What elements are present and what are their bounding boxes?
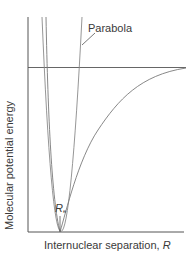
potential-energy-diagram	[0, 0, 195, 258]
parabola-curve	[42, 17, 82, 232]
parabola-leader-line	[82, 33, 95, 45]
morse-curve	[46, 17, 186, 232]
x-axis-label-text: Internuclear separation,	[44, 239, 163, 251]
x-axis-label-variable: R	[163, 239, 171, 251]
equilibrium-separation-label: Re	[55, 202, 66, 214]
re-subscript: e	[63, 208, 66, 214]
y-axis-label: Molecular potential energy	[3, 101, 15, 230]
parabola-label: Parabola	[88, 22, 132, 34]
re-main: R	[55, 202, 63, 214]
x-axis-label: Internuclear separation, R	[44, 239, 171, 251]
